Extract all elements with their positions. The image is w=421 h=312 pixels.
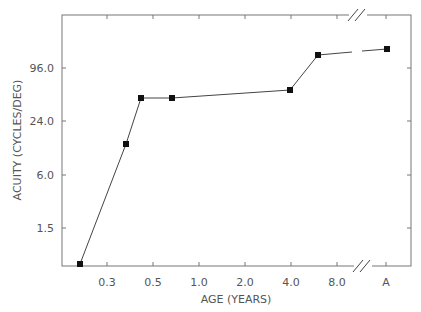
axis-break-top bbox=[348, 9, 367, 21]
data-point bbox=[169, 95, 175, 101]
x-axis-title: AGE (YEARS) bbox=[201, 293, 272, 306]
y-tick-label: 6.0 bbox=[37, 169, 55, 182]
y-tick-label: 1.5 bbox=[37, 222, 55, 235]
x-tick-label: A bbox=[382, 276, 390, 289]
y-ticks bbox=[62, 68, 411, 228]
x-tick-label: 4.0 bbox=[282, 276, 300, 289]
acuity-chart: 0.3 0.5 1.0 2.0 4.0 8.0 A 96.0 24.0 6.0 … bbox=[0, 0, 421, 312]
x-tick-label: 2.0 bbox=[236, 276, 254, 289]
data-markers bbox=[77, 46, 390, 267]
data-point bbox=[287, 87, 293, 93]
y-tick-label: 24.0 bbox=[30, 115, 55, 128]
data-point bbox=[315, 52, 321, 58]
data-point bbox=[77, 261, 83, 267]
plot-frame bbox=[62, 15, 411, 266]
y-tick-label: 96.0 bbox=[30, 62, 55, 75]
x-tick-label: 1.0 bbox=[190, 276, 208, 289]
y-axis-title: ACUITY (CYCLES/DEG) bbox=[11, 80, 24, 201]
x-tick-label: 0.3 bbox=[98, 276, 116, 289]
data-point bbox=[123, 141, 129, 147]
axis-break-bottom bbox=[353, 260, 372, 272]
x-tick-label: 8.0 bbox=[328, 276, 346, 289]
x-tick-label: 0.5 bbox=[144, 276, 162, 289]
data-series-line bbox=[80, 49, 387, 264]
data-point bbox=[138, 95, 144, 101]
data-point bbox=[384, 46, 390, 52]
